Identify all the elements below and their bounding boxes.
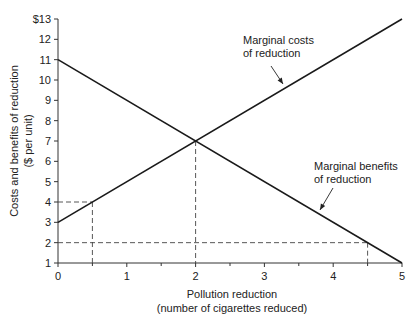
y-tick-label: 10	[39, 74, 51, 86]
y-tick-label: $13	[33, 13, 51, 25]
y-tick-label: 1	[45, 257, 51, 269]
y-axis-label: Costs and benefits of reduction	[8, 65, 20, 217]
x-tick-label: 4	[330, 270, 336, 282]
marginal-costs-line	[58, 19, 402, 222]
annotation-label: Marginal benefits	[314, 160, 398, 172]
x-tick-label: 2	[193, 270, 199, 282]
y-axis-sublabel: ($ per unit)	[22, 114, 34, 167]
x-tick-label: 5	[399, 270, 405, 282]
chart: 123456789101112$13012345 Marginal costso…	[0, 0, 417, 322]
annotation-label: of reduction	[243, 47, 300, 59]
x-axis-label: Pollution reduction	[187, 288, 278, 300]
y-tick-label: 6	[45, 155, 51, 167]
x-tick-label: 3	[261, 270, 267, 282]
y-tick-label: 12	[39, 33, 51, 45]
x-axis-sublabel: (number of cigarettes reduced)	[157, 302, 307, 314]
x-tick-label: 1	[124, 270, 130, 282]
annotation-label: Marginal costs	[243, 34, 314, 46]
series-lines	[58, 19, 402, 263]
x-tick-label: 0	[55, 270, 61, 282]
y-tick-label: 5	[45, 176, 51, 188]
y-tick-label: 8	[45, 115, 51, 127]
tick-labels: 123456789101112$13012345	[33, 13, 405, 282]
arrowhead-icon	[278, 78, 283, 84]
annotation-label: of reduction	[314, 173, 371, 185]
y-tick-label: 2	[45, 237, 51, 249]
y-tick-label: 4	[45, 196, 51, 208]
arrowhead-icon	[320, 204, 325, 210]
axes	[54, 19, 402, 267]
y-tick-label: 3	[45, 216, 51, 228]
y-tick-label: 9	[45, 94, 51, 106]
y-tick-label: 7	[45, 135, 51, 147]
y-tick-label: 11	[40, 54, 51, 66]
